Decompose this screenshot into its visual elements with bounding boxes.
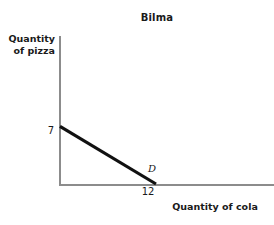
demand-curve-label: D: [148, 163, 156, 174]
demand-curve-line: [60, 126, 156, 184]
plot-area: [0, 0, 274, 225]
x-axis-title: Quantity of cola: [160, 201, 270, 212]
economics-ppf-chart: Bilma Quantity of pizza 7 12 D Quantity …: [0, 0, 274, 225]
